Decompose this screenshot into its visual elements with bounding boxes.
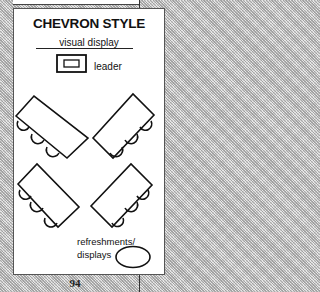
page-number: 94 — [0, 277, 150, 289]
leader-inner-icon — [64, 60, 79, 67]
table-lower-left-icon — [18, 164, 79, 227]
table-upper-left-icon — [16, 96, 88, 158]
table-lower-right-icon — [91, 164, 152, 227]
leader-table-icon — [57, 55, 86, 72]
room-layout-diagram — [0, 0, 168, 292]
refreshments-table-icon — [116, 247, 150, 268]
table-upper-right-icon — [93, 94, 154, 158]
